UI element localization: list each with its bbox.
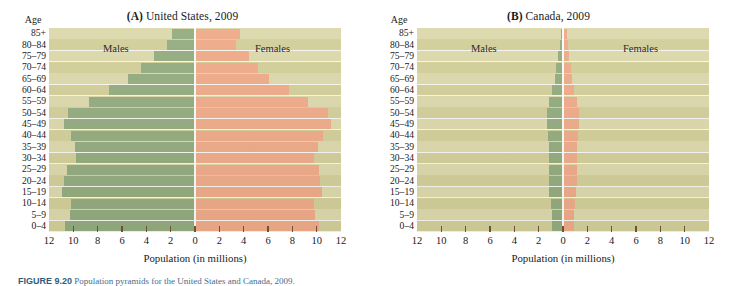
panel-b-males-label: Males [471, 43, 497, 55]
bar-female-80_84 [195, 40, 236, 50]
bar-male-25_29 [549, 165, 563, 175]
panel-b-title-rest: Canada, 2009 [523, 10, 590, 22]
age-label-80_84: 80–84 [22, 40, 46, 50]
panel-a-males-label: Males [103, 43, 129, 55]
bar-male-15_19 [549, 187, 563, 197]
age-label-45_49: 45–49 [22, 119, 46, 129]
age-label-80_84: 80–84 [390, 40, 414, 50]
bar-male-80_84 [167, 40, 195, 50]
bar-male-15_19 [62, 187, 195, 197]
panel-a-title-rest: United States, 2009 [143, 10, 238, 22]
age-label-70_74: 70–74 [390, 62, 414, 72]
x-tick-8 [292, 226, 293, 232]
bar-female-20_24 [563, 176, 577, 186]
age-label-25_29: 25–29 [390, 164, 414, 174]
age-label-30_34: 30–34 [22, 153, 46, 163]
bar-female-75_79 [195, 51, 249, 61]
age-label-5_9: 5–9 [400, 210, 414, 220]
bar-female-60_64 [563, 85, 574, 95]
age-label-30_34: 30–34 [390, 153, 414, 163]
x-tick-2 [538, 226, 539, 232]
x-tick-label-2: 2 [159, 235, 183, 246]
x-tick-label-12: 12 [37, 235, 61, 246]
bar-female-45_49 [563, 119, 579, 129]
age-label-0_4: 0–4 [400, 221, 414, 231]
x-tick-label-4: 4 [600, 235, 624, 246]
bar-male-70_74 [141, 63, 195, 73]
bar-female-55_59 [563, 97, 577, 107]
bar-male-45_49 [547, 119, 563, 129]
x-tick-label-2: 2 [575, 235, 599, 246]
panel-b-females-label: Females [623, 43, 658, 55]
x-tick-6 [489, 226, 490, 232]
age-label-40_44: 40–44 [22, 130, 46, 140]
age-label-60_64: 60–64 [390, 85, 414, 95]
panel-b-age-tick-labels: 85+80–8475–7970–7465–6960–6455–5950–5445… [374, 28, 414, 232]
bar-male-40_44 [548, 131, 563, 141]
panel-united-states: (A) United States, 2009 Age 85+80–8475–7… [0, 0, 365, 285]
x-tick-8 [660, 226, 661, 232]
bar-female-40_44 [563, 131, 578, 141]
panel-b-title-prefix: (B) [507, 10, 523, 22]
age-label-50_54: 50–54 [390, 108, 414, 118]
bar-female-25_29 [195, 165, 319, 175]
bar-male-5_9 [552, 210, 563, 220]
x-tick-6 [121, 226, 122, 232]
age-label-70_74: 70–74 [22, 62, 46, 72]
bar-female-5_9 [563, 210, 574, 220]
x-tick-label-0: 0 [551, 235, 575, 246]
bar-female-70_74 [195, 63, 258, 73]
zero-center-line [562, 28, 563, 232]
bar-female-70_74 [563, 63, 571, 73]
bar-female-15_19 [563, 187, 576, 197]
x-tick-label-6: 6 [256, 235, 280, 246]
panel-b-age-axis-label: Age [380, 14, 418, 25]
age-label-20_24: 20–24 [22, 176, 46, 186]
panel-a-age-tick-labels: 85+80–8475–7970–7465–6960–6455–5950–5445… [6, 28, 46, 232]
bar-female-0_4 [563, 221, 574, 231]
age-label-5_9: 5–9 [32, 210, 46, 220]
x-tick-10 [684, 226, 685, 232]
bar-male-55_59 [89, 97, 195, 107]
x-tick-8 [465, 226, 466, 232]
bar-female-55_59 [195, 97, 308, 107]
x-tick-label-0: 0 [183, 235, 207, 246]
bar-female-45_49 [195, 119, 331, 129]
x-tick-label-10: 10 [429, 235, 453, 246]
bar-male-20_24 [64, 176, 195, 186]
zero-center-line [194, 28, 195, 232]
bar-female-85+ [195, 29, 240, 39]
x-tick-label-4: 4 [232, 235, 256, 246]
bar-female-50_54 [563, 108, 579, 118]
bar-male-40_44 [71, 131, 195, 141]
bar-male-45_49 [64, 119, 195, 129]
bar-male-35_39 [75, 142, 195, 152]
x-tick-label-12: 12 [405, 235, 429, 246]
bar-female-5_9 [195, 210, 315, 220]
panel-a-title-prefix: (A) [127, 10, 143, 22]
bar-male-50_54 [547, 108, 563, 118]
bar-female-80_84 [563, 40, 568, 50]
age-label-75_79: 75–79 [22, 51, 46, 61]
x-tick-2 [219, 226, 220, 232]
age-label-45_49: 45–49 [390, 119, 414, 129]
x-tick-4 [611, 226, 612, 232]
panel-b-title: (B) Canada, 2009 [366, 10, 731, 23]
bar-female-25_29 [563, 165, 577, 175]
bar-male-30_34 [76, 153, 195, 163]
x-tick-4 [514, 226, 515, 232]
x-tick-label-12: 12 [329, 235, 353, 246]
age-label-65_69: 65–69 [22, 74, 46, 84]
x-tick-label-8: 8 [86, 235, 110, 246]
age-label-75_79: 75–79 [390, 51, 414, 61]
bar-female-50_54 [195, 108, 328, 118]
age-label-25_29: 25–29 [22, 164, 46, 174]
age-label-20_24: 20–24 [390, 176, 414, 186]
x-tick-4 [146, 226, 147, 232]
x-tick-0 [194, 226, 195, 232]
panel-a-x-axis-title: Population (in millions) [49, 252, 341, 264]
panel-a-age-axis-label: Age [14, 14, 52, 25]
panel-a-title: (A) United States, 2009 [0, 10, 365, 23]
x-tick-label-4: 4 [502, 235, 526, 246]
